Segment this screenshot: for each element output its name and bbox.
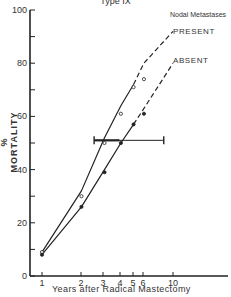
filled-circle-marker: [119, 141, 122, 144]
curve-absent-dashed: [134, 63, 173, 124]
curve-present-solid: [42, 84, 134, 252]
filled-circle-marker: [132, 123, 135, 126]
open-circle-marker: [80, 195, 83, 198]
axes: 02040608010012345610: [12, 5, 228, 288]
filled-circle-marker: [40, 253, 43, 256]
y-tick-label: 60: [17, 111, 27, 121]
filled-circle-marker: [103, 171, 106, 174]
mortality-chart: 02040608010012345610: [0, 0, 231, 297]
filled-circle-marker: [80, 205, 83, 208]
curve-present-dashed: [134, 31, 173, 84]
x-tick-label: 4: [117, 278, 122, 288]
x-tick-label: 6: [140, 278, 145, 288]
curves: [42, 31, 173, 254]
open-circle-marker: [132, 86, 135, 89]
y-tick-label: 0: [22, 271, 27, 281]
x-tick-label: 3: [100, 278, 105, 288]
filled-circle-marker: [142, 112, 145, 115]
open-circle-marker: [119, 112, 122, 115]
x-tick-label: 10: [168, 278, 178, 288]
x-tick-label: 2: [78, 278, 83, 288]
open-circle-marker: [142, 78, 145, 81]
y-tick-label: 80: [17, 58, 27, 68]
y-tick-label: 40: [17, 165, 27, 175]
y-tick-label: 20: [17, 218, 27, 228]
x-tick-label: 1: [39, 278, 44, 288]
y-tick-label: 100: [12, 5, 27, 15]
x-tick-label: 5: [130, 278, 135, 288]
open-circle-marker: [103, 141, 106, 144]
